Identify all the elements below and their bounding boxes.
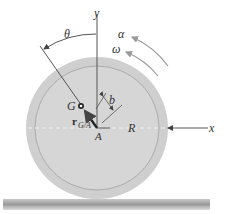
- disk-diagram: y x R θ α ω b G r G/A A: [0, 0, 226, 214]
- omega-label: ω: [112, 42, 120, 56]
- g-point-inner: [80, 105, 83, 108]
- alpha-arrow: [132, 37, 168, 66]
- b-label: b: [109, 93, 115, 107]
- r-vector-label: r: [72, 115, 77, 127]
- y-axis-label: y: [93, 6, 100, 20]
- theta-label: θ: [64, 27, 70, 41]
- alpha-label: α: [118, 27, 125, 41]
- r-vector-subscript: G/A: [78, 121, 91, 130]
- g-label: G: [67, 99, 76, 113]
- ground: [3, 199, 210, 210]
- a-label: A: [94, 130, 102, 142]
- radius-label: R: [127, 121, 136, 135]
- theta-arc: [44, 34, 96, 49]
- x-axis-label: x: [208, 121, 215, 135]
